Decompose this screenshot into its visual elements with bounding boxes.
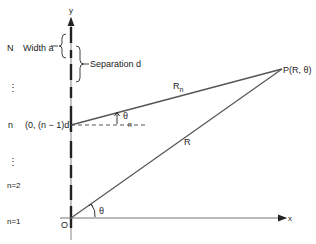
width-brace bbox=[59, 34, 66, 58]
separation-brace bbox=[76, 46, 84, 82]
label-N: N bbox=[7, 43, 14, 53]
label-n2: n=2 bbox=[7, 181, 21, 190]
label-point-P: P(R, θ) bbox=[283, 65, 312, 75]
R-line bbox=[71, 69, 282, 218]
label-width: Width a bbox=[23, 43, 54, 53]
label-R: R bbox=[184, 137, 191, 147]
label-Rn: Rn bbox=[173, 81, 184, 93]
Rn-line bbox=[71, 69, 282, 125]
label-dots-mid: ⋮ bbox=[8, 156, 18, 167]
label-theta-n: θ bbox=[123, 111, 128, 121]
label-theta-n-sub: n bbox=[128, 121, 132, 128]
label-x-axis: x bbox=[288, 214, 292, 223]
label-theta: θ bbox=[99, 206, 104, 216]
label-n: n bbox=[8, 120, 13, 130]
label-separation: Separation d bbox=[90, 59, 141, 69]
theta-arc bbox=[91, 204, 95, 217]
label-dots-top: ⋮ bbox=[8, 82, 18, 93]
label-source-coord: (0, (n − 1)d) bbox=[25, 120, 72, 130]
label-n1: n=1 bbox=[7, 217, 21, 226]
label-y-axis: y bbox=[69, 6, 73, 15]
label-origin: O bbox=[61, 220, 68, 230]
diagram-canvas: N ⋮ n ⋮ n=2 n=1 Width a Separation d (0,… bbox=[0, 0, 316, 244]
